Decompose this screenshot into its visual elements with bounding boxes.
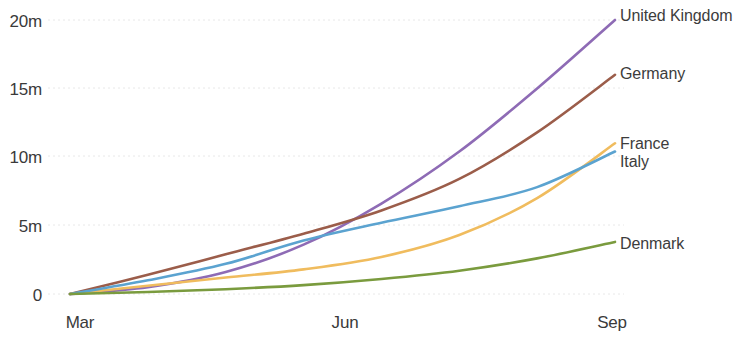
legend-label-denmark: Denmark (620, 236, 684, 253)
y-tick-label-10m: 10m (0, 148, 42, 168)
series-line-united-kingdom (70, 20, 615, 294)
y-tick-label-15m: 15m (0, 80, 42, 100)
data-series-group (70, 20, 615, 294)
y-tick-label-0: 0 (0, 286, 42, 306)
legend-label-france: France (620, 136, 669, 153)
legend-label-italy: Italy (620, 154, 649, 171)
line-chart: 20m 15m 10m 5m 0 Mar Jun Sep United King… (0, 0, 744, 341)
gridlines (48, 20, 624, 294)
legend-label-germany: Germany (620, 66, 685, 83)
x-tick-label-sep: Sep (572, 313, 652, 333)
x-tick-label-jun: Jun (305, 313, 385, 333)
legend-label-united-kingdom: United Kingdom (620, 8, 732, 25)
y-tick-label-5m: 5m (0, 217, 42, 237)
series-line-germany (70, 75, 615, 294)
y-tick-label-20m: 20m (0, 12, 42, 32)
series-line-france (70, 143, 615, 294)
x-tick-label-mar: Mar (40, 313, 120, 333)
